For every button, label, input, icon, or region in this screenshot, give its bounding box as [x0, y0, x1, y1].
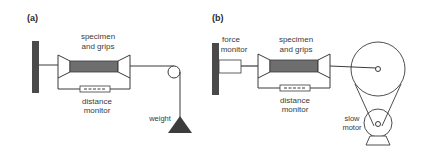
motor-hub	[376, 122, 381, 127]
cable	[330, 66, 376, 68]
right-grip	[118, 55, 130, 78]
fixed-wall	[32, 41, 39, 93]
force-monitor	[219, 60, 241, 73]
weight-label: weight	[148, 114, 172, 123]
panel-b: (b) force monitor specimen and g	[212, 13, 405, 145]
specimen	[70, 61, 118, 72]
fixed-wall	[212, 43, 219, 95]
panel-a: (a) specimen and grips distance monitor …	[27, 13, 192, 133]
panel-a-label: (a)	[27, 13, 38, 23]
right-grip	[318, 54, 330, 78]
tensile-test-diagram: (a) specimen and grips distance monitor …	[0, 0, 424, 150]
distance-label-line2: monitor	[282, 105, 309, 114]
distance-monitor-wire-right	[110, 78, 130, 89]
specimen-label-line2: and grips	[280, 45, 313, 54]
motor-label-line2: motor	[342, 123, 362, 132]
left-grip	[58, 55, 70, 78]
force-label-line1: force	[222, 35, 240, 44]
distance-label-line1: distance	[82, 97, 112, 106]
specimen-label-line2: and grips	[82, 42, 115, 51]
specimen-label-line1: specimen	[279, 35, 313, 44]
force-label-line2: monitor	[221, 45, 248, 54]
motor-label-line1: slow	[344, 114, 360, 123]
distance-monitor-wire-left	[258, 78, 280, 88]
pulley	[168, 66, 180, 78]
distance-monitor-wire-left	[58, 78, 80, 89]
distance-label-line2: monitor	[84, 106, 111, 115]
distance-label-line1: distance	[280, 96, 310, 105]
specimen-label-line1: specimen	[81, 32, 115, 41]
motor-base	[366, 136, 390, 145]
weight	[168, 116, 192, 133]
panel-b-label: (b)	[212, 13, 224, 23]
drive-wheel-hub	[376, 67, 381, 72]
specimen	[270, 60, 318, 72]
distance-monitor-wire-right	[310, 78, 330, 88]
left-grip	[258, 54, 270, 78]
